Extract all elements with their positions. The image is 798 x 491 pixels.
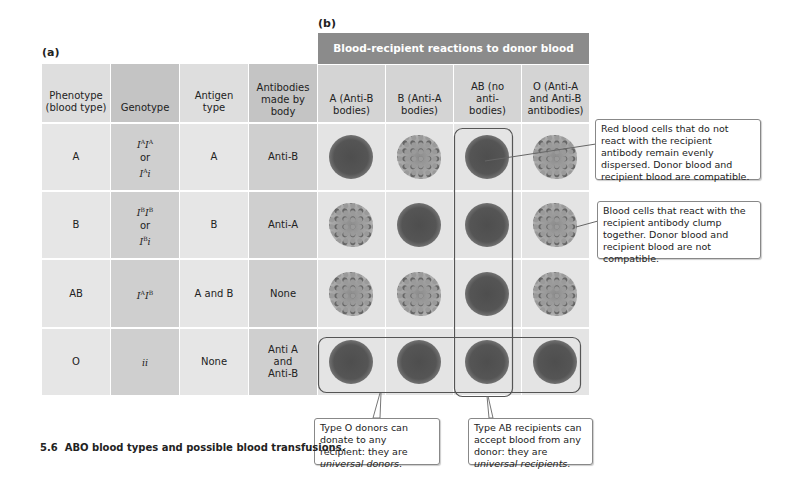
leader-compatible [485,144,596,161]
leader-incompatible [576,221,598,227]
callout-incompatible: Blood cells that react with the recipien… [597,201,761,259]
universal-donor-outline [319,338,581,393]
leader-universal-recipient [487,396,493,418]
universal-recipient-outline [455,129,513,397]
leader-universal-donor [373,393,381,418]
callout-compatible: Red blood cells that do not react with t… [595,119,761,180]
figure-caption: 5.6 ABO blood types and possible blood t… [40,441,345,454]
callout-universal-recipients: Type AB recipients can accept blood from… [468,418,593,465]
